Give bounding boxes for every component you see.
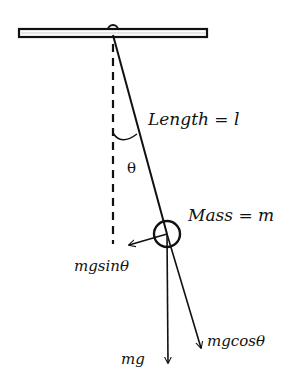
angle-arc xyxy=(113,133,137,140)
tangential-force-label: mgsinθ xyxy=(74,259,129,274)
angle-theta-label: θ xyxy=(127,161,136,176)
tangential-force-arrow xyxy=(129,234,167,245)
radial-force-arrow xyxy=(167,234,201,348)
weight-label: mg xyxy=(121,352,145,367)
radial-force-label: mgcosθ xyxy=(207,334,265,349)
pendulum-diagram xyxy=(0,0,295,386)
length-label: Length = l xyxy=(148,111,239,128)
weight-force-arrow xyxy=(167,234,168,363)
mass-label: Mass = m xyxy=(188,207,274,224)
pendulum-string xyxy=(113,35,167,234)
